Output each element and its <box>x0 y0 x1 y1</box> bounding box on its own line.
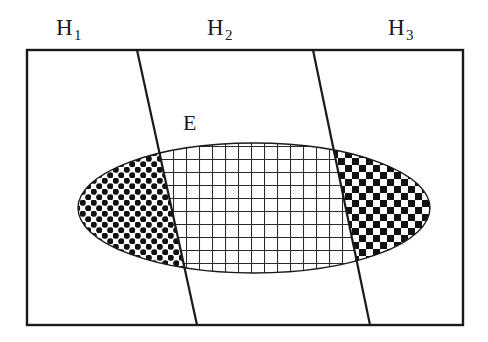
figure-container: H1 H2 H3 E <box>0 0 488 342</box>
partition-diagram-canvas <box>0 0 488 342</box>
region-label-h2-subscript: 2 <box>225 27 233 43</box>
region-label-h2-base: H <box>207 15 224 40</box>
region-label-h1: H1 <box>56 16 81 39</box>
region-label-h3: H3 <box>388 16 413 39</box>
region-label-h3-subscript: 3 <box>406 27 414 43</box>
region-label-h1-base: H <box>56 15 73 40</box>
region-label-h3-base: H <box>388 15 405 40</box>
region-label-h2: H2 <box>207 16 232 39</box>
region-label-h1-subscript: 1 <box>74 27 82 43</box>
event-label-E: E <box>183 112 196 134</box>
